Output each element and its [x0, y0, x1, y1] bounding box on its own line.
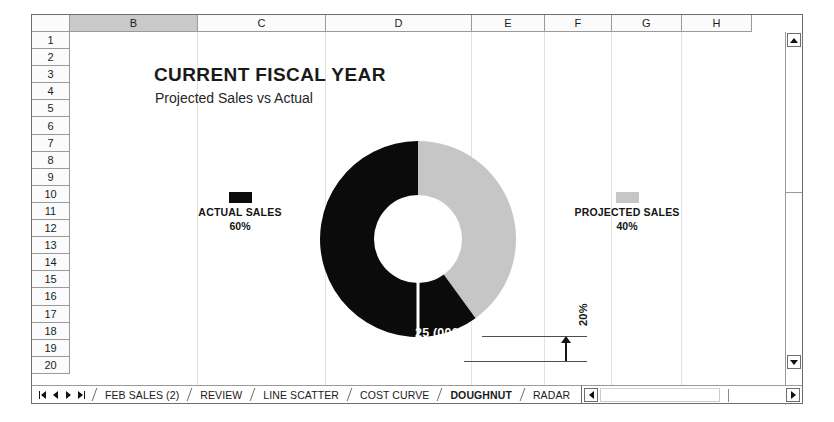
horizontal-scrollbar[interactable] — [581, 386, 802, 403]
first-sheet-button[interactable] — [36, 388, 49, 401]
data-label-actual-sales: 25 (000) — [415, 326, 463, 340]
column-header-e[interactable]: E — [472, 15, 545, 32]
sheet-tab-feb-sales-2[interactable]: FEB SALES (2) — [98, 386, 186, 403]
dimension-arrow-stem — [565, 340, 567, 361]
worksheet-grid[interactable]: CURRENT FISCAL YEAR Projected Sales vs A… — [70, 32, 785, 385]
scroll-right-button[interactable] — [786, 388, 800, 402]
scroll-left-button[interactable] — [584, 388, 598, 402]
row-header[interactable]: 16 — [32, 288, 70, 305]
last-icon — [78, 391, 83, 399]
horizontal-scroll-track[interactable] — [600, 388, 784, 402]
legend-percent-actual-sales: 60% — [175, 219, 305, 233]
row-header[interactable]: 10 — [32, 186, 70, 203]
legend-label-actual-sales: ACTUAL SALES — [175, 206, 305, 219]
triangle-down-icon — [790, 360, 798, 365]
tab-separator — [436, 386, 443, 403]
sheet-tab-doughnut[interactable]: DOUGHNUT — [443, 386, 518, 403]
column-header-row: B C D E F G H — [32, 15, 802, 32]
legend-entry-actual-sales[interactable]: ACTUAL SALES 60% — [175, 192, 305, 233]
previous-icon — [53, 391, 58, 399]
tab-separator — [346, 386, 353, 403]
last-sheet-button[interactable] — [75, 388, 88, 401]
row-header[interactable]: 17 — [32, 306, 70, 323]
row-header[interactable]: 8 — [32, 152, 70, 169]
row-header[interactable]: 11 — [32, 203, 70, 220]
select-all-corner[interactable] — [32, 15, 70, 32]
scrollbar-divider — [785, 197, 786, 405]
doughnut-svg — [318, 139, 518, 339]
column-header-b[interactable]: B — [70, 15, 198, 32]
row-header[interactable]: 13 — [32, 237, 70, 254]
leader-line-bottom — [464, 361, 587, 362]
row-header[interactable]: 9 — [32, 169, 70, 186]
spreadsheet-application: B C D E F G H 1 2 3 4 5 6 7 8 9 10 11 12… — [0, 0, 834, 422]
scroll-up-button[interactable] — [787, 33, 801, 47]
row-header[interactable]: 5 — [32, 100, 70, 117]
row-header[interactable]: 20 — [32, 357, 70, 374]
tab-separator — [249, 386, 256, 403]
column-header-d[interactable]: D — [326, 15, 472, 32]
row-header[interactable]: 18 — [32, 323, 70, 340]
vertical-scrollbar[interactable] — [785, 32, 802, 385]
sheet-tab-cost-curve[interactable]: COST CURVE — [353, 386, 436, 403]
row-header[interactable]: 14 — [32, 254, 70, 271]
sheet-tabs: FEB SALES (2) REVIEW LINE SCATTER COST C… — [91, 386, 577, 403]
tab-separator — [186, 386, 193, 403]
legend-entry-projected-sales[interactable]: PROJECTED SALES 40% — [542, 192, 712, 233]
triangle-left-icon — [589, 391, 594, 399]
next-icon — [66, 391, 71, 399]
triangle-up-icon — [790, 38, 798, 43]
worksheet-window: B C D E F G H 1 2 3 4 5 6 7 8 9 10 11 12… — [31, 14, 803, 404]
column-header-f[interactable]: F — [545, 15, 612, 32]
triangle-right-icon — [791, 391, 796, 399]
row-header[interactable]: 12 — [32, 220, 70, 237]
sheet-tab-radar[interactable]: RADAR — [526, 386, 577, 403]
row-header[interactable]: 15 — [32, 271, 70, 288]
tab-separator — [91, 386, 98, 403]
chart-subtitle: Projected Sales vs Actual — [155, 90, 313, 106]
column-header-g[interactable]: G — [612, 15, 682, 32]
tab-separator — [519, 386, 526, 403]
row-header[interactable]: 7 — [32, 135, 70, 152]
leader-line-top — [482, 336, 587, 337]
doughnut-center-hole — [374, 195, 462, 283]
row-header[interactable]: 2 — [32, 49, 70, 66]
up-arrow-icon — [561, 336, 571, 343]
sheet-tab-line-scatter[interactable]: LINE SCATTER — [256, 386, 346, 403]
row-header[interactable]: 6 — [32, 117, 70, 134]
previous-sheet-button[interactable] — [49, 388, 62, 401]
legend-swatch-projected-sales — [616, 192, 639, 203]
sheet-tab-bar: FEB SALES (2) REVIEW LINE SCATTER COST C… — [32, 385, 802, 403]
first-icon — [41, 391, 46, 399]
chart-title: CURRENT FISCAL YEAR — [154, 64, 386, 86]
legend-label-projected-sales: PROJECTED SALES — [542, 206, 712, 219]
doughnut-chart-object[interactable]: CURRENT FISCAL YEAR Projected Sales vs A… — [70, 32, 785, 385]
legend-swatch-actual-sales — [229, 192, 252, 203]
column-header-c[interactable]: C — [198, 15, 326, 32]
row-header[interactable]: 4 — [32, 83, 70, 100]
next-sheet-button[interactable] — [62, 388, 75, 401]
legend-percent-projected-sales: 40% — [542, 219, 712, 233]
doughnut-plot-area[interactable] — [318, 139, 518, 339]
row-header[interactable]: 3 — [32, 66, 70, 83]
scrollbar-divider-cap — [786, 192, 802, 193]
scroll-down-button[interactable] — [787, 355, 801, 369]
dimension-callout: 20% — [482, 318, 602, 364]
row-header[interactable]: 1 — [32, 32, 70, 49]
row-header-column: 1 2 3 4 5 6 7 8 9 10 11 12 13 14 15 16 1… — [32, 32, 70, 385]
sheet-tab-review[interactable]: REVIEW — [193, 386, 249, 403]
column-header-h[interactable]: H — [682, 15, 752, 32]
row-header[interactable]: 19 — [32, 340, 70, 357]
dimension-label: 20% — [577, 303, 589, 326]
horizontal-scroll-thumb[interactable] — [600, 388, 720, 402]
sheet-nav-buttons — [32, 386, 91, 403]
